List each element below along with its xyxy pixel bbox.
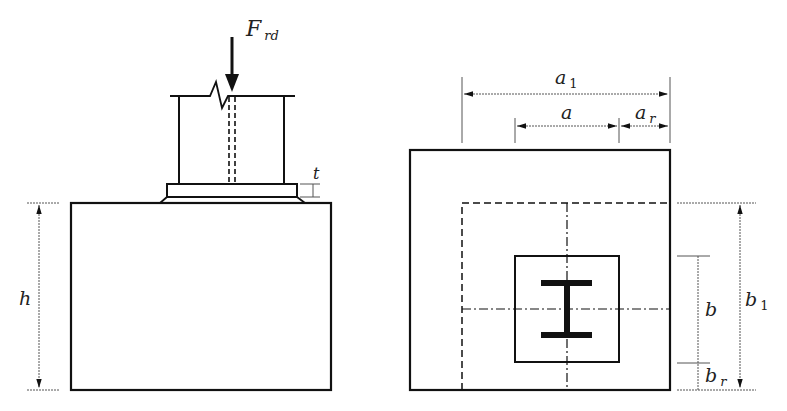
b-label: b: [705, 300, 717, 319]
force-arrow: [225, 37, 239, 92]
a-label-text: a: [561, 101, 572, 123]
force-label-sub: rd: [264, 28, 279, 43]
b1-label-main: b: [745, 288, 757, 310]
a-label: a: [561, 103, 572, 122]
plan-view: [410, 77, 756, 390]
thickness-label-text: t: [313, 164, 319, 183]
b1-label: b1: [745, 290, 768, 312]
foundation-plan: [410, 150, 670, 390]
b-label-text: b: [705, 298, 717, 320]
force-label: Frd: [246, 18, 279, 42]
ar-label-sub: r: [649, 111, 655, 126]
a1-label-main: a: [555, 66, 566, 88]
base-plate: [167, 184, 297, 197]
ar-label: ar: [635, 103, 656, 125]
height-label-text: h: [19, 287, 31, 309]
a1-label-sub: 1: [569, 76, 577, 91]
a1-label: a1: [555, 68, 578, 90]
b1-label-sub: 1: [760, 298, 768, 313]
thickness-dimension: [300, 184, 320, 197]
br-label-main: b: [705, 364, 717, 386]
elevation-view: [27, 37, 331, 390]
ar-label-main: a: [635, 101, 646, 123]
diagram-canvas: [0, 0, 787, 411]
height-label: h: [19, 289, 31, 308]
thickness-label: t: [313, 166, 319, 182]
br-label-sub: r: [720, 374, 726, 389]
br-label: br: [705, 366, 726, 388]
foundation-block: [71, 203, 331, 390]
height-dimension: [27, 203, 60, 390]
force-label-main: F: [246, 16, 261, 41]
